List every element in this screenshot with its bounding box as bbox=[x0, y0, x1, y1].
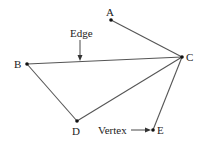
vertex-label-e: E bbox=[157, 125, 164, 136]
edge-d-c bbox=[77, 57, 182, 121]
vertex-dot-d bbox=[75, 119, 79, 123]
vertex-dot-e bbox=[151, 128, 155, 132]
edge-pointer-arrow bbox=[78, 40, 83, 61]
edge-annotation: Edge bbox=[70, 28, 93, 39]
vertex-label-a: A bbox=[106, 7, 114, 18]
vertex-dot-b bbox=[25, 62, 29, 66]
vertex-label-c: C bbox=[186, 52, 193, 63]
edge-e-c bbox=[153, 57, 182, 130]
vertex-pointer-arrow bbox=[131, 128, 151, 133]
edge-b-c bbox=[27, 57, 182, 64]
vertex-dot-a bbox=[109, 18, 113, 22]
vertex-label-b: B bbox=[14, 59, 21, 70]
vertex-label-d: D bbox=[72, 126, 80, 137]
edge-a-c bbox=[111, 20, 182, 57]
vertex-dot-c bbox=[180, 55, 184, 59]
vertex-annotation: Vertex bbox=[98, 125, 127, 136]
graph-diagram: A B C D E Edge Vertex bbox=[0, 0, 204, 143]
graph-canvas bbox=[0, 0, 204, 143]
edge-b-d bbox=[27, 64, 77, 121]
